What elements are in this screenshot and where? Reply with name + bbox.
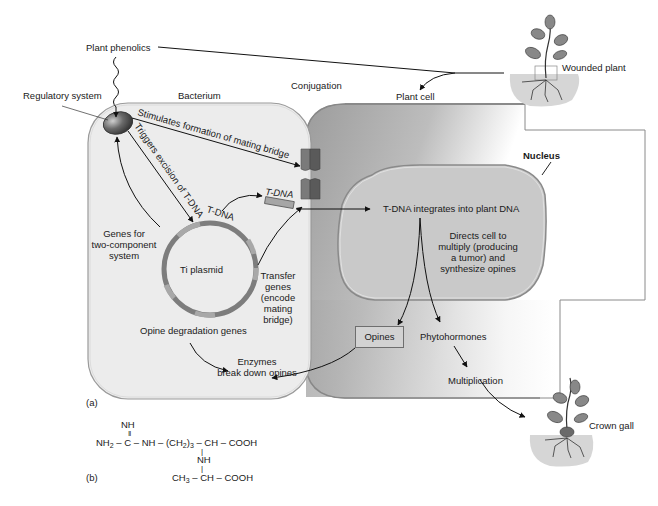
label-regulatory-system: Regulatory system: [23, 90, 102, 101]
label-genes-two-component: Genes for two-component system: [88, 228, 160, 261]
label-crown-gall: Crown gall: [589, 420, 634, 431]
label-directs-cell: Directs cell to multiply (producing a tu…: [428, 230, 528, 274]
label-opine-degradation: Opine degradation genes: [140, 325, 247, 336]
label-ti-plasmid: Ti plasmid: [180, 264, 223, 275]
wounded-plant-icon: [510, 15, 579, 106]
chem-side-chain: CH3 – CH – COOH: [172, 472, 253, 483]
opines-box: Opines: [355, 326, 404, 348]
panel-label-a: (a): [86, 397, 98, 408]
label-phytohormones: Phytohormones: [420, 331, 487, 342]
label-multiplication: Multiplication: [448, 375, 503, 386]
label-plant-cell: Plant cell: [396, 91, 435, 102]
panel-label-b: (b): [86, 472, 98, 483]
label-t-dna-integrates: T-DNA integrates into plant DNA: [383, 203, 519, 214]
label-wounded-plant: Wounded plant: [562, 62, 626, 73]
label-transfer-genes: Transfer genes (encode mating bridge): [256, 270, 300, 325]
label-nucleus: Nucleus: [523, 150, 560, 161]
chem-main-chain: NH2 – C – NH – (CH2)3 – CH – COOH: [96, 437, 257, 448]
label-bacterium: Bacterium: [178, 90, 221, 101]
label-conjugation: Conjugation: [291, 80, 342, 91]
label-enzymes: Enzymes break down opines: [214, 356, 300, 378]
label-plant-phenolics: Plant phenolics: [86, 42, 150, 53]
